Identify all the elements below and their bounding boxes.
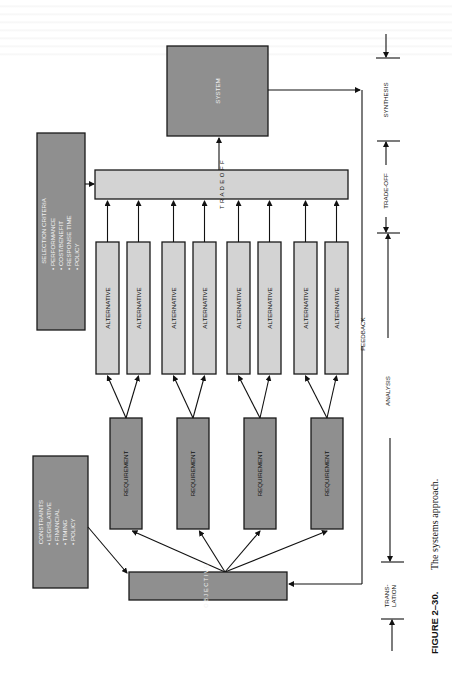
objective-to-requirement-arrow xyxy=(132,531,225,572)
requirement-to-alternative-arrow xyxy=(239,376,261,418)
criteria-item: • COST/BENEFIT xyxy=(57,221,64,270)
phase-analysis: ANALYSIS xyxy=(384,376,391,406)
alternative-node: ALTERNATIVE xyxy=(127,201,150,374)
constraint-item: • TIMING xyxy=(61,519,68,545)
alternative-label: ALTERNATIVE xyxy=(170,287,177,328)
requirement-to-alternative-arrow xyxy=(108,376,127,418)
alternative-label: ALTERNATIVE xyxy=(235,287,242,328)
requirement-to-alternative-arrow xyxy=(327,376,337,418)
alternative-label: ALTERNATIVE xyxy=(333,287,340,328)
objective-node: O B J E C T I V E xyxy=(129,564,287,608)
objective-to-requirement-arrow xyxy=(225,531,327,572)
trade-off-label: T R A D E O F F xyxy=(219,160,225,209)
objective-to-requirement-arrow xyxy=(225,531,260,572)
constraints-node: CONSTRAINTS • LEGISLATIVE • FINANCIAL • … xyxy=(33,456,88,588)
criteria-item: • RESPONSE TIME xyxy=(65,215,72,270)
alternative-node: ALTERNATIVE xyxy=(162,201,185,374)
requirement-label: REQUIREMENT xyxy=(122,450,129,496)
requirement-to-alternative-arrow xyxy=(193,376,205,418)
feedback-label: FEEDBACK xyxy=(359,316,366,350)
requirement-label: REQUIREMENT xyxy=(256,450,263,496)
alternative-node: ALTERNATIVE xyxy=(96,201,119,374)
alternative-node: ALTERNATIVE xyxy=(227,201,250,374)
requirement-node: REQUIREMENT xyxy=(174,376,226,572)
phase-trade-off: TRADE-OFF xyxy=(382,173,389,209)
phase-axis: SYNTHESIS TRADE-OFF ANALYSIS TRANS- LATI… xyxy=(376,34,404,651)
phase-translation-2: LATION xyxy=(390,585,397,607)
requirement-label: REQUIREMENT xyxy=(323,450,330,496)
figure-caption-text: The systems approach. xyxy=(429,479,440,570)
alternative-label: ALTERNATIVE xyxy=(266,287,273,328)
alternative-node: ALTERNATIVE xyxy=(325,201,348,374)
system-node: SYSTEM xyxy=(167,46,268,136)
alternative-label: ALTERNATIVE xyxy=(104,287,111,328)
systems-approach-diagram: SYSTEM T R A D E O F F SELECTION CRITERI… xyxy=(0,0,452,682)
phase-translation-1: TRANS- xyxy=(383,584,390,607)
requirement-to-alternative-arrow xyxy=(126,376,139,418)
figure-number: FIGURE 2–30. xyxy=(429,592,440,654)
system-label: SYSTEM xyxy=(214,78,221,103)
constraint-item: • FINANCIAL xyxy=(53,508,60,545)
criteria-item: • POLICY xyxy=(73,243,80,270)
objective-label: O B J E C T I V E xyxy=(203,564,209,608)
figure-caption: FIGURE 2–30. The systems approach. xyxy=(429,479,440,654)
phase-synthesis: SYNTHESIS xyxy=(382,82,389,117)
requirement-label: REQUIREMENT xyxy=(189,450,196,496)
alternative-label: ALTERNATIVE xyxy=(135,287,142,328)
constraint-item: • POLICY xyxy=(69,518,76,545)
alternatives-group: ALTERNATIVEALTERNATIVEALTERNATIVEALTERNA… xyxy=(96,201,348,374)
requirement-to-alternative-arrow xyxy=(260,376,270,418)
alternative-label: ALTERNATIVE xyxy=(302,287,309,328)
alternative-label: ALTERNATIVE xyxy=(201,287,208,328)
constraints-title: CONSTRAINTS xyxy=(37,500,44,544)
requirements-group: REQUIREMENTREQUIREMENTREQUIREMENTREQUIRE… xyxy=(108,376,344,572)
requirement-to-alternative-arrow xyxy=(306,376,328,418)
alternative-node: ALTERNATIVE xyxy=(294,201,317,374)
requirement-node: REQUIREMENT xyxy=(225,376,343,572)
requirement-to-alternative-arrow xyxy=(174,376,194,418)
constraint-item: • LEGISLATIVE xyxy=(45,502,52,545)
selection-criteria-title: SELECTION CRITERIA xyxy=(40,197,47,264)
selection-criteria-node: SELECTION CRITERIA • PERFORMANCE • COST/… xyxy=(37,133,85,330)
constraints-to-objective-arrow xyxy=(88,527,127,573)
alternative-node: ALTERNATIVE xyxy=(193,201,216,374)
trade-off-node: T R A D E O F F xyxy=(95,160,348,209)
alternative-node: ALTERNATIVE xyxy=(258,201,281,374)
requirement-node: REQUIREMENT xyxy=(225,376,276,572)
criteria-item: • PERFORMANCE xyxy=(49,218,56,270)
